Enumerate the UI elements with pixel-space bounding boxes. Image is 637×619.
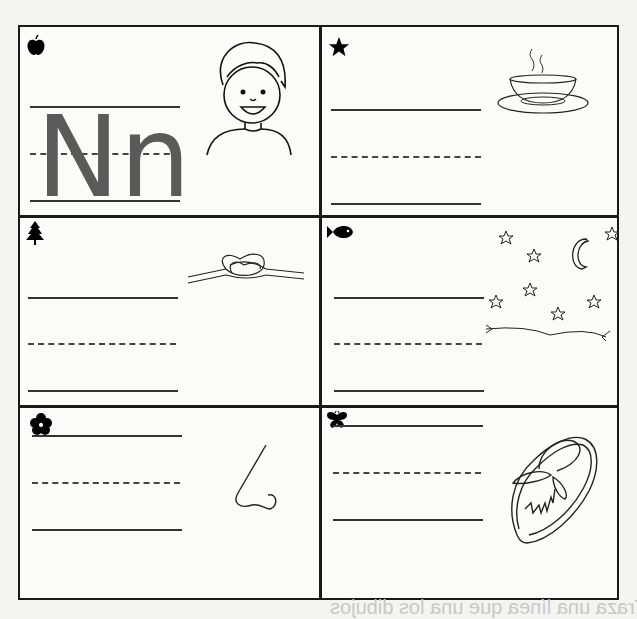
writing-line-top[interactable]: [32, 435, 182, 437]
letter-sample-Nn: Nn: [36, 101, 191, 213]
nose-picture: [230, 443, 280, 515]
cell-nose: [20, 407, 319, 600]
apple-icon: [26, 35, 46, 57]
writing-line-top[interactable]: [331, 109, 481, 111]
cell-shoe: [321, 407, 619, 600]
cell-knot: [20, 217, 319, 405]
cell-soup: [321, 27, 619, 215]
writing-line-mid[interactable]: [331, 156, 481, 158]
soup-bowl-picture: [496, 47, 594, 115]
writing-line-base[interactable]: [334, 390, 484, 392]
star-icon: [328, 36, 350, 58]
writing-line-base[interactable]: [333, 519, 483, 521]
cell-night: [321, 217, 619, 405]
fish-icon: [327, 224, 353, 240]
boy-picture: [205, 37, 295, 159]
tree-icon: [26, 221, 44, 245]
writing-line-mid[interactable]: [28, 343, 176, 345]
shoe-picture: [509, 431, 601, 547]
knot-picture: [186, 251, 306, 287]
cell-boy: Nn: [20, 27, 319, 215]
writing-line-top[interactable]: [28, 297, 178, 299]
writing-line-top[interactable]: [333, 425, 483, 427]
writing-line-base[interactable]: [28, 390, 178, 392]
writing-line-mid[interactable]: [333, 472, 481, 474]
worksheet-grid: Nn: [18, 25, 619, 600]
night-sky-picture: [486, 221, 620, 341]
writing-line-mid[interactable]: [334, 343, 482, 345]
bleed-through-text: Nombra cada figura. Traza una línea que …: [330, 596, 637, 619]
writing-line-base[interactable]: [32, 529, 182, 531]
writing-line-mid[interactable]: [32, 482, 180, 484]
writing-line-base[interactable]: [331, 203, 481, 205]
flower-icon: [30, 413, 52, 435]
writing-line-top[interactable]: [334, 297, 484, 299]
